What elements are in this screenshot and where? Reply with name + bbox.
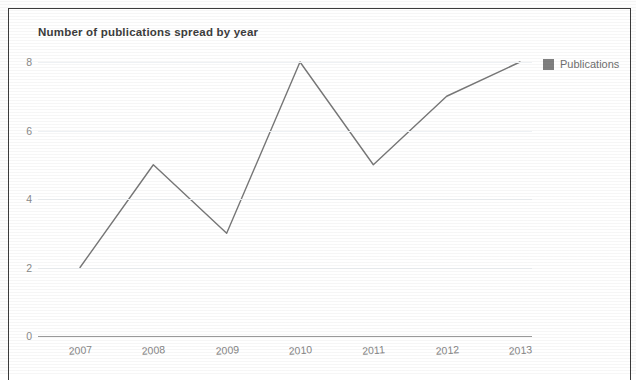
- plot-area: [38, 56, 532, 337]
- gridline: [38, 62, 532, 63]
- gridline: [38, 131, 532, 132]
- x-axis-tick-label: 2012: [435, 343, 459, 357]
- gridline: [38, 199, 532, 200]
- x-axis-labels: 2007200820092010201120122013: [38, 338, 532, 368]
- y-axis-tick-label: 8: [14, 56, 32, 68]
- y-axis-tick-label: 6: [14, 125, 32, 137]
- data-series-line: [80, 62, 520, 268]
- x-axis-tick-label: 2007: [68, 343, 92, 357]
- y-axis-tick-label: 4: [14, 193, 32, 205]
- x-axis-line: [38, 336, 532, 337]
- chart-legend: Publications: [543, 58, 619, 70]
- gridline: [38, 268, 532, 269]
- y-axis-tick-label: 2: [14, 262, 32, 274]
- y-axis-tick-label: 0: [14, 330, 32, 342]
- x-axis-tick-label: 2009: [215, 343, 239, 357]
- legend-swatch-publications: [543, 59, 554, 70]
- x-axis-tick-label: 2013: [508, 343, 532, 357]
- y-axis-labels: 02468: [14, 0, 32, 374]
- data-line-svg: [38, 56, 532, 337]
- chart-title: Number of publications spread by year: [38, 26, 258, 38]
- x-axis-tick-label: 2008: [142, 343, 166, 357]
- x-axis-tick-label: 2011: [362, 343, 385, 357]
- legend-label-publications: Publications: [560, 58, 619, 70]
- x-axis-tick-label: 2010: [288, 343, 312, 357]
